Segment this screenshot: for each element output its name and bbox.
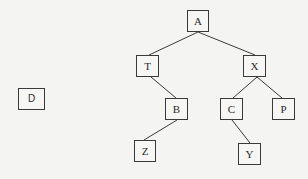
node-label: X xyxy=(251,61,259,72)
node-label: B xyxy=(173,104,180,115)
node-label: T xyxy=(144,61,151,72)
node-label: C xyxy=(228,104,235,115)
tree-node-b: B xyxy=(165,98,188,120)
tree-node-a: A xyxy=(187,10,209,32)
edge-A-X xyxy=(198,32,255,55)
edge-T-B xyxy=(151,77,176,98)
tree-node-p: P xyxy=(272,98,295,120)
node-label: Y xyxy=(246,149,254,160)
edge-A-T xyxy=(149,32,198,55)
edge-B-Z xyxy=(144,120,177,140)
tree-node-c: C xyxy=(220,98,243,120)
standalone-node-d: D xyxy=(18,88,45,110)
node-label: A xyxy=(194,16,202,27)
tree-node-z: Z xyxy=(134,140,156,162)
node-label: D xyxy=(28,94,35,104)
edge-X-P xyxy=(257,77,282,98)
edge-C-Y xyxy=(232,120,250,143)
tree-node-x: X xyxy=(243,55,266,77)
node-label: Z xyxy=(142,146,149,157)
node-label: P xyxy=(280,104,286,115)
tree-node-y: Y xyxy=(238,143,261,165)
edge-X-C xyxy=(233,77,257,98)
tree-node-t: T xyxy=(136,55,159,77)
